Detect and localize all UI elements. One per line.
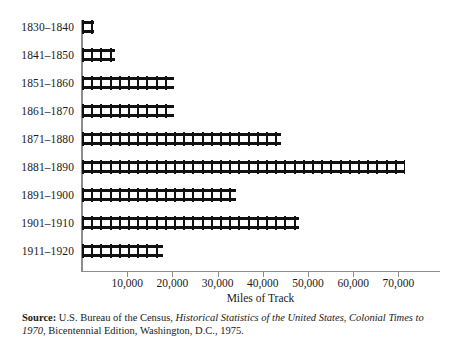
category-label: 1861–1870 [0, 98, 74, 124]
bar-railroad-track [82, 104, 174, 118]
x-axis-title: Miles of Track [81, 292, 440, 304]
chart-row: 1830–1840 [0, 14, 453, 40]
category-label: 1891–1900 [0, 182, 74, 208]
chart-figure: 1830–1840 1841–1850 1851–1860 1861–1870 … [0, 0, 453, 300]
bar-railroad-track [82, 48, 115, 62]
category-label: 1830–1840 [0, 14, 74, 40]
x-axis-tick-label: 70,000 [368, 277, 428, 289]
chart-row: 1851–1860 [0, 70, 453, 96]
chart-row: 1841–1850 [0, 42, 453, 68]
source-part-2: , Bicentennial Edition, Washington, D.C.… [43, 325, 244, 336]
x-axis-line [81, 271, 440, 272]
category-label: 1871–1880 [0, 126, 74, 152]
category-label: 1911–1920 [0, 238, 74, 264]
bar-railroad-track [82, 20, 94, 34]
category-label: 1841–1850 [0, 42, 74, 68]
category-label: 1851–1860 [0, 70, 74, 96]
bar-railroad-track [82, 244, 163, 258]
chart-row: 1891–1900 [0, 182, 453, 208]
bar-railroad-track [82, 76, 174, 90]
chart-row: 1911–1920 [0, 238, 453, 264]
bar-railroad-track [82, 216, 299, 230]
source-lead: Source: [22, 312, 56, 323]
source-note: Source: U.S. Bureau of the Census, Histo… [22, 312, 432, 337]
chart-row: 1901–1910 [0, 210, 453, 236]
bar-railroad-track [82, 132, 281, 146]
bar-railroad-track [82, 188, 236, 202]
chart-row: 1861–1870 [0, 98, 453, 124]
chart-row: 1881–1890 [0, 154, 453, 180]
category-label: 1901–1910 [0, 210, 74, 236]
source-part-1: U.S. Bureau of the Census, [56, 312, 175, 323]
category-label: 1881–1890 [0, 154, 74, 180]
chart-row: 1871–1880 [0, 126, 453, 152]
bar-railroad-track [82, 160, 405, 174]
